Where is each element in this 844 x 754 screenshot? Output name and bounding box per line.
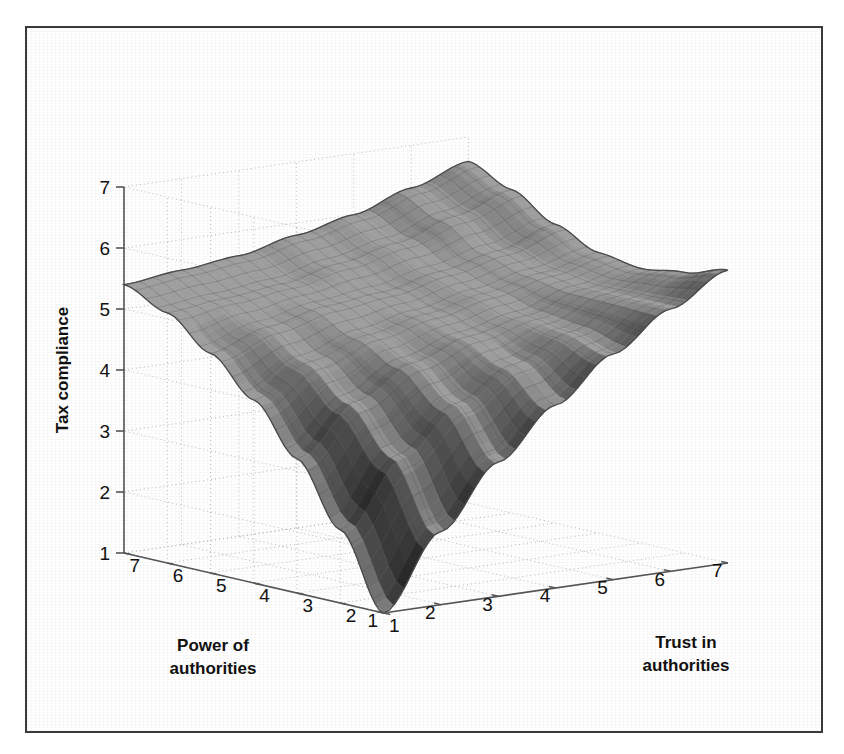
tick-label-power: 4 — [259, 585, 270, 606]
tick-label-trust: 1 — [368, 610, 379, 631]
tick-label-compliance: 3 — [99, 421, 110, 442]
tick-label-power: 1 — [389, 615, 400, 636]
tick-label-trust: 4 — [540, 585, 551, 606]
axis-title-trust-line1: Trust in — [655, 633, 716, 652]
axis-title-trust-line2: authorities — [643, 656, 730, 675]
tick-label-power: 3 — [302, 595, 313, 616]
tick-label-compliance: 7 — [99, 177, 110, 198]
axis-title-power-line1: Power of — [177, 636, 249, 655]
axis-title-compliance: Tax compliance — [53, 307, 72, 433]
tick-label-power: 5 — [216, 575, 227, 596]
axis-title-power-line2: authorities — [170, 659, 257, 678]
tick-label-trust: 5 — [597, 577, 608, 598]
tick-label-compliance: 6 — [99, 238, 110, 259]
figure-canvas: 123456776543211234567Tax compliancePower… — [0, 0, 844, 754]
tick-label-compliance: 5 — [99, 299, 110, 320]
tick-label-compliance: 4 — [99, 360, 110, 381]
tick-label-power: 2 — [346, 605, 357, 626]
surface-plot-3d: 123456776543211234567Tax compliancePower… — [0, 0, 844, 754]
tick-label-trust: 7 — [712, 560, 723, 581]
tick-label-compliance: 1 — [99, 543, 110, 564]
tick-label-trust: 3 — [482, 594, 493, 615]
tick-label-compliance: 2 — [99, 482, 110, 503]
tick-label-power: 6 — [173, 565, 184, 586]
tick-label-trust: 6 — [655, 569, 666, 590]
tick-label-trust: 2 — [425, 602, 436, 623]
tick-label-power: 7 — [129, 555, 140, 576]
